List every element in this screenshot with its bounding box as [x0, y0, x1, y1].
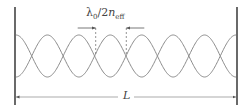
node-spacing-label: λ0/2neff — [86, 6, 124, 21]
cavity-diagram: λ0/2neff L — [0, 0, 250, 110]
cavity-length-label: L — [120, 89, 133, 102]
